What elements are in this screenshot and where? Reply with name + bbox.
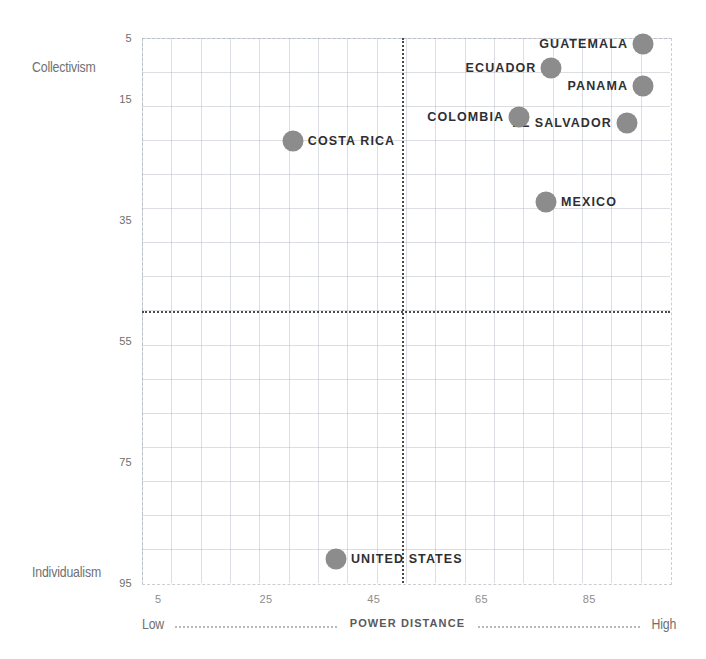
data-point[interactable]: [536, 191, 557, 212]
data-point[interactable]: [541, 58, 562, 79]
y-tick-label: 5: [102, 32, 132, 44]
x-axis-tick-labels: 525456585: [0, 593, 706, 611]
spectrum-dots-right: [478, 626, 640, 628]
y-tick-label: 75: [102, 456, 132, 468]
data-point[interactable]: [633, 76, 654, 97]
data-point[interactable]: [325, 548, 346, 569]
x-tick-label: 25: [259, 593, 272, 605]
x-axis-low-label: Low: [142, 615, 164, 632]
x-axis-high-label: High: [651, 615, 676, 632]
x-tick-label: 45: [367, 593, 380, 605]
data-point[interactable]: [282, 130, 303, 151]
data-point-label: COSTA RICA: [308, 134, 395, 148]
data-point-label: PANAMA: [568, 79, 629, 93]
data-point[interactable]: [633, 34, 654, 55]
x-tick-label: 65: [475, 593, 488, 605]
x-tick-label: 5: [155, 593, 161, 605]
horizontal-reference-line: [142, 311, 670, 313]
y-axis-top-caption: Collectivism: [32, 58, 96, 75]
data-point[interactable]: [509, 106, 530, 127]
y-tick-label: 95: [102, 577, 132, 589]
y-tick-label: 55: [102, 335, 132, 347]
x-axis-title: POWER DISTANCE: [343, 617, 472, 629]
data-point-label: ECUADOR: [466, 61, 537, 75]
data-point[interactable]: [616, 112, 637, 133]
x-tick-label: 85: [583, 593, 596, 605]
y-tick-label: 35: [102, 214, 132, 226]
y-axis-bottom-caption: Individualism: [32, 563, 101, 580]
data-point-label: COLOMBIA: [427, 110, 504, 124]
data-point-label: MEXICO: [561, 195, 617, 209]
hofstede-power-distance-individualism-scatter-chart: 51535557595 525456585 Collectivism Indiv…: [0, 0, 706, 659]
x-axis-spectrum: Low POWER DISTANCE High: [142, 612, 676, 634]
y-axis-tick-labels: 51535557595: [96, 0, 132, 659]
data-point-label: UNITED STATES: [351, 552, 463, 566]
data-point-label: GUATEMALA: [539, 37, 628, 51]
spectrum-dots-left: [175, 626, 337, 628]
vertical-reference-line: [402, 38, 404, 583]
y-tick-label: 15: [102, 93, 132, 105]
